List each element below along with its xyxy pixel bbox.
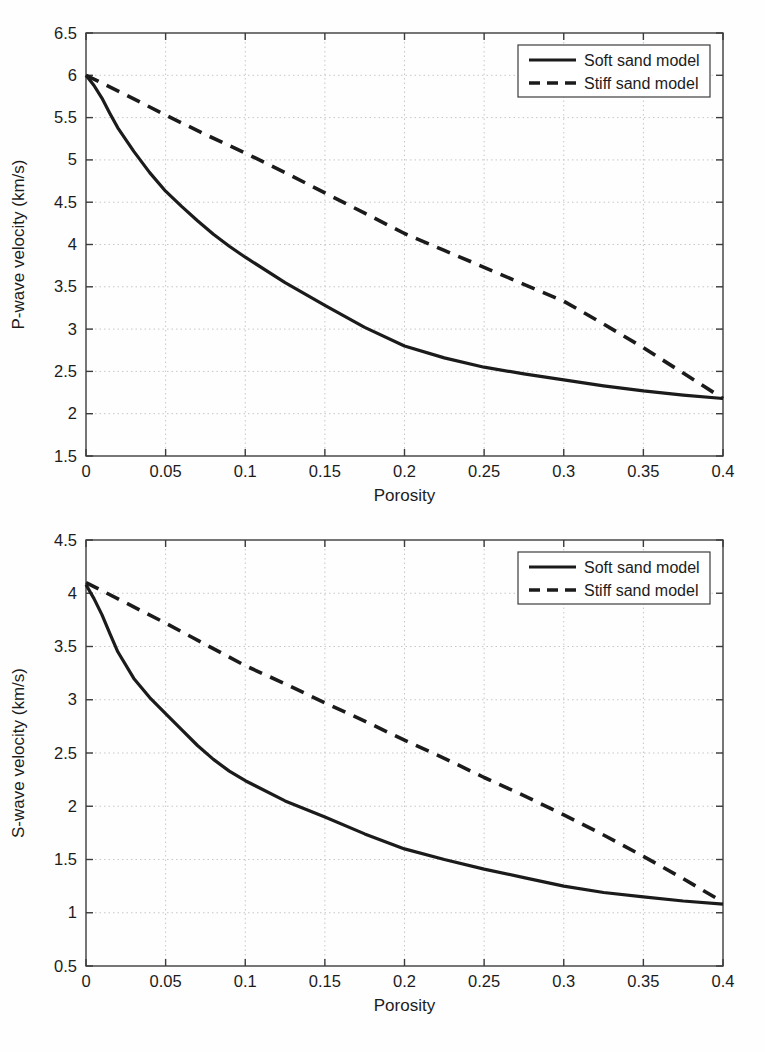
x-tick-label: 0.2: [393, 462, 416, 480]
x-tick-label: 0.3: [552, 462, 575, 480]
y-tick-label: 6.5: [54, 24, 77, 42]
y-tick-label: 2: [68, 797, 77, 815]
legend-label: Soft sand model: [584, 52, 700, 69]
x-tick-label: 0.2: [393, 972, 416, 990]
x-axis-label: Porosity: [374, 486, 436, 505]
x-tick-label: 0.05: [150, 462, 182, 480]
figure-page: 00.050.10.150.20.250.30.350.41.522.533.5…: [0, 0, 765, 1052]
x-tick-label: 0.35: [627, 462, 659, 480]
y-axis-label: P-wave velocity (km/s): [9, 159, 28, 329]
s-wave-chart: 00.050.10.150.20.250.30.350.40.511.522.5…: [0, 526, 765, 1052]
y-tick-label: 1: [68, 903, 77, 921]
x-tick-label: 0.3: [552, 972, 575, 990]
y-tick-label: 2.5: [54, 744, 77, 762]
p-wave-plot-canvas: 00.050.10.150.20.250.30.350.41.522.533.5…: [0, 0, 765, 526]
y-tick-label: 1.5: [54, 850, 77, 868]
y-axis-label: S-wave velocity (km/s): [9, 668, 28, 838]
x-tick-label: 0.4: [712, 972, 735, 990]
y-tick-label: 0.5: [54, 957, 77, 975]
y-tick-label: 2.5: [54, 362, 77, 380]
y-tick-label: 1.5: [54, 447, 77, 465]
y-tick-label: 6: [68, 66, 77, 84]
x-axis-label: Porosity: [374, 996, 436, 1015]
y-tick-label: 4.5: [54, 193, 77, 211]
y-tick-label: 3.5: [54, 277, 77, 295]
x-tick-label: 0.15: [309, 972, 341, 990]
y-tick-label: 5: [68, 150, 77, 168]
p-wave-chart: 00.050.10.150.20.250.30.350.41.522.533.5…: [0, 0, 765, 526]
legend-label: Stiff sand model: [584, 582, 698, 599]
s-wave-plot-canvas: 00.050.10.150.20.250.30.350.40.511.522.5…: [0, 526, 765, 1052]
x-tick-label: 0.1: [234, 972, 257, 990]
x-tick-label: 0.05: [150, 972, 182, 990]
x-tick-label: 0.1: [234, 462, 257, 480]
y-tick-label: 3: [68, 320, 77, 338]
legend-label: Stiff sand model: [584, 75, 698, 92]
legend-label: Soft sand model: [584, 559, 700, 576]
y-tick-label: 3: [68, 690, 77, 708]
y-tick-label: 4.5: [54, 531, 77, 549]
y-tick-label: 4: [68, 235, 77, 253]
x-tick-label: 0.25: [468, 462, 500, 480]
x-tick-label: 0.35: [627, 972, 659, 990]
x-tick-label: 0.15: [309, 462, 341, 480]
y-tick-label: 2: [68, 404, 77, 422]
y-tick-label: 5.5: [54, 108, 77, 126]
x-tick-label: 0.4: [712, 462, 735, 480]
y-tick-label: 4: [68, 584, 77, 602]
x-tick-label: 0: [81, 972, 90, 990]
x-tick-label: 0.25: [468, 972, 500, 990]
x-tick-label: 0: [81, 462, 90, 480]
y-tick-label: 3.5: [54, 637, 77, 655]
